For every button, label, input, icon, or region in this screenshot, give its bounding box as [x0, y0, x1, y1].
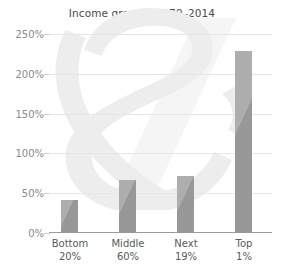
bar-next-19[interactable]	[177, 176, 194, 233]
x-category-line1: Bottom	[52, 238, 89, 249]
bar-shade	[119, 180, 136, 233]
y-tick-mark-0	[44, 233, 50, 234]
bar-bottom-20[interactable]	[61, 200, 78, 233]
y-tick-label-50: 50%	[0, 188, 44, 199]
y-tick-label-200: 200%	[0, 68, 44, 79]
plot-area	[49, 34, 272, 233]
gridline-250	[49, 34, 272, 35]
y-tick-label-100: 100%	[0, 148, 44, 159]
chart-title: Income growth, 1979–2014	[0, 7, 284, 19]
bar-shade	[61, 200, 78, 233]
x-category-line2: 1%	[207, 250, 281, 263]
income-growth-bar-chart: Income growth, 1979–2014 250% 200% 150% …	[0, 0, 284, 273]
x-category-line1: Next	[174, 238, 197, 249]
bar-middle-60[interactable]	[119, 180, 136, 233]
bar-top-1[interactable]	[235, 51, 252, 233]
x-category-line1: Top	[236, 238, 253, 249]
x-category-line1: Middle	[111, 238, 144, 249]
y-tick-label-250: 250%	[0, 29, 44, 40]
x-category-top-1: Top 1%	[207, 237, 281, 263]
bar-shade	[177, 176, 194, 233]
bar-shade	[235, 51, 252, 233]
y-tick-label-150: 150%	[0, 108, 44, 119]
